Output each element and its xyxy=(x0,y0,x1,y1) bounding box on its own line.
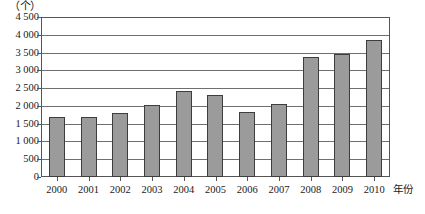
bar-2005[interactable] xyxy=(207,95,223,177)
bar-2006[interactable] xyxy=(239,112,255,177)
x-axis-tick-mark xyxy=(311,177,312,181)
bar-2010[interactable] xyxy=(366,40,382,177)
bar-slot xyxy=(168,17,200,177)
bar-slot xyxy=(327,17,359,177)
y-axis-tick-label: 4 500 xyxy=(0,12,39,23)
x-axis-tick-mark xyxy=(57,177,58,181)
x-axis-tick-mark xyxy=(216,177,217,181)
bar-2003[interactable] xyxy=(144,105,160,177)
x-axis-tick-mark xyxy=(152,177,153,181)
bar-2001[interactable] xyxy=(81,117,97,177)
bar-2008[interactable] xyxy=(303,57,319,177)
bar-2004[interactable] xyxy=(176,91,192,177)
x-axis-tick-mark xyxy=(247,177,248,181)
bar-slot xyxy=(73,17,105,177)
y-axis-tick-label: 2 500 xyxy=(0,83,39,94)
y-axis-tick-label: 1 000 xyxy=(0,136,39,147)
y-axis-tick-label: 1 500 xyxy=(0,119,39,130)
x-axis-tick-mark xyxy=(342,177,343,181)
y-axis-tick-label: 3 000 xyxy=(0,65,39,76)
y-axis-tick-label: 4 000 xyxy=(0,30,39,41)
x-axis-tick-mark xyxy=(184,177,185,181)
x-axis-tick-mark xyxy=(120,177,121,181)
bar-slot xyxy=(41,17,73,177)
bar-2009[interactable] xyxy=(334,54,350,177)
bar-2007[interactable] xyxy=(271,104,287,177)
x-axis-tick-mark xyxy=(279,177,280,181)
x-axis-tick-mark xyxy=(89,177,90,181)
y-axis-tick-label: 0 xyxy=(0,172,39,183)
bar-2002[interactable] xyxy=(112,113,128,177)
bar-chart: （个） 05001 0001 5002 0002 5003 0003 5004 … xyxy=(0,0,425,214)
bar-slot xyxy=(136,17,168,177)
y-axis-tick-label: 3 500 xyxy=(0,48,39,59)
bar-slot xyxy=(358,17,390,177)
x-axis-title: 年份 xyxy=(393,184,414,196)
bar-slot xyxy=(263,17,295,177)
x-axis-tick-mark xyxy=(374,177,375,181)
y-axis-tick-mark xyxy=(37,177,41,178)
bar-slot xyxy=(295,17,327,177)
bars-layer xyxy=(41,17,390,177)
bar-slot xyxy=(231,17,263,177)
bar-slot xyxy=(104,17,136,177)
x-axis-tick-label: 2010 xyxy=(354,184,394,196)
y-axis-tick-label: 500 xyxy=(0,154,39,165)
bar-2000[interactable] xyxy=(49,117,65,177)
y-axis-tick-label: 2 000 xyxy=(0,101,39,112)
bar-slot xyxy=(200,17,232,177)
